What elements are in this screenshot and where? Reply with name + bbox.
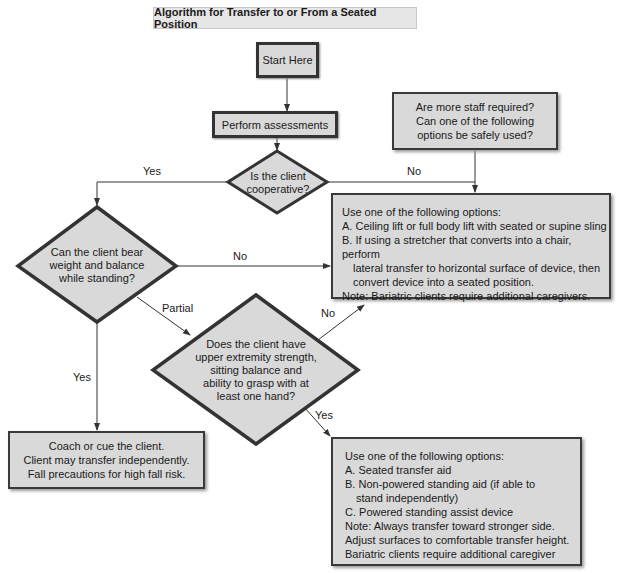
edge-label-bear-weight-partial: Partial <box>162 302 193 314</box>
arrow-cooperative-yes <box>97 182 228 205</box>
edge-label-cooperative-yes: Yes <box>143 165 161 177</box>
decision-bear-weight-text: Can the client bear weight and balance w… <box>42 246 152 285</box>
options-lift-node: Use one of the following options: A. Cei… <box>331 193 611 299</box>
diagram-title: Algorithm for Transfer to or From a Seat… <box>153 7 417 29</box>
start-node-text: Start Here <box>262 53 312 67</box>
options-aid-node: Use one of the following options: A. Sea… <box>331 437 582 566</box>
more-staff-node: Are more staff required? Can one of the … <box>392 92 558 150</box>
edge-label-cooperative-no: No <box>407 165 421 177</box>
decision-cooperative-text: Is the client cooperative? <box>238 170 318 196</box>
edge-label-upper-strength-no: No <box>321 307 335 319</box>
decision-upper-strength-text: Does the client have upper extremity str… <box>186 338 326 403</box>
perform-assessments-text: Perform assessments <box>222 118 328 132</box>
start-node: Start Here <box>256 42 319 78</box>
perform-assessments-node: Perform assessments <box>212 111 338 138</box>
coach-node: Coach or cue the client. Client may tran… <box>8 431 205 489</box>
edge-label-upper-strength-yes: Yes <box>315 409 333 421</box>
edge-label-bear-weight-no: No <box>233 250 247 262</box>
edge-label-bear-weight-yes: Yes <box>73 371 91 383</box>
